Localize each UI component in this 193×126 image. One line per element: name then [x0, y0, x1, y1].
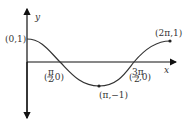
cosine-graph: y x (0,1) (2π,1) (π,−1) ( π 2 ,0) ( 3π 2…	[0, 0, 193, 126]
point-2pi-1	[168, 39, 171, 42]
label-pi-over-2: ( π 2 ,0)	[44, 67, 64, 84]
svg-text:,0): ,0)	[139, 72, 151, 82]
y-axis-label: y	[34, 12, 41, 22]
svg-text:,0): ,0)	[52, 72, 64, 82]
label-pi-minus1: (π,−1)	[99, 90, 128, 100]
label-3pi-over-2: ( 3π 2 ,0)	[129, 67, 151, 84]
x-axis-label: x	[164, 65, 169, 75]
label-0-1: (0,1)	[5, 34, 26, 44]
point-pi-minus1	[97, 84, 100, 87]
svg-text:(: (	[44, 72, 48, 82]
label-2pi-1: (2π,1)	[155, 28, 182, 38]
